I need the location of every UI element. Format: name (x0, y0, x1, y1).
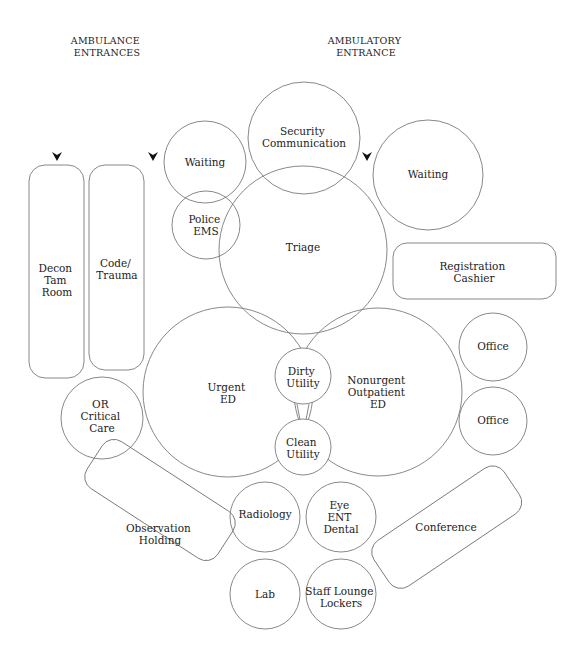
svg-text:OR Critical Care: OR Critical Care (81, 398, 124, 434)
room-conference[interactable]: Conference (366, 460, 527, 593)
svg-text:Security Communication: Security Communication (262, 125, 346, 149)
room-dirty-utility[interactable]: Dirty Utility (275, 348, 331, 404)
room-staff-lounge-lockers[interactable]: Staff Lounge Lockers (305, 559, 377, 629)
svg-text:Dirty Utility: Dirty Utility (286, 365, 319, 389)
svg-text:Police EMS: Police EMS (188, 213, 223, 237)
ambulatory-entrance-header: AMBULATORY ENTRANCE (327, 35, 405, 58)
svg-text:Urgent ED: Urgent ED (207, 381, 248, 405)
svg-text:Staff Lounge Lockers: Staff Lounge Lockers (305, 585, 377, 609)
svg-text:Observation Holding: Observation Holding (126, 522, 194, 546)
svg-text:Waiting: Waiting (408, 168, 449, 180)
svg-text:Radiology: Radiology (238, 508, 291, 520)
room-registration-cashier[interactable]: Registration Cashier (393, 243, 556, 299)
svg-text:Office: Office (477, 340, 509, 352)
svg-text:Registration Cashier: Registration Cashier (439, 260, 508, 284)
room-observation-holding[interactable]: Observation Holding (79, 434, 240, 566)
svg-text:Nonurgent Outpatient: Nonurgent Outpatient ED (347, 374, 408, 410)
svg-text:Clean Utility: Clean Utility (286, 436, 320, 460)
room-decon-tam-room[interactable]: Decon Decon Tam Room (29, 165, 84, 378)
room-radiology[interactable]: Radiology (230, 482, 300, 552)
utility-connector (297, 404, 309, 420)
svg-text:Waiting: Waiting (185, 156, 226, 168)
room-security-communication[interactable]: Security Communication (248, 82, 360, 194)
room-police-ems[interactable]: Police EMS (172, 191, 240, 259)
room-office-2[interactable]: Office (459, 387, 527, 455)
svg-text:Decon Tam Room: Decon Tam Room (39, 262, 76, 298)
svg-text:Lab: Lab (255, 588, 275, 600)
svg-text:Code/ Trauma: Code/ Trauma (96, 257, 137, 281)
room-waiting-right[interactable]: Waiting (373, 120, 483, 230)
arrowhead-down-icon (362, 152, 372, 161)
room-code-trauma[interactable]: Code/ Trauma (89, 165, 144, 370)
ambulance-entrances-header: AMBULANCE ENTRANCES (70, 35, 143, 58)
room-eye-ent-dental[interactable]: Eye ENT Dental (306, 482, 376, 552)
arrowhead-down-icon (52, 152, 62, 161)
room-office-1[interactable]: Office (459, 313, 527, 381)
svg-text:Conference: Conference (415, 521, 476, 533)
svg-text:Office: Office (477, 414, 509, 426)
arrowhead-down-icon (148, 152, 158, 161)
room-lab[interactable]: Lab (230, 559, 300, 629)
svg-text:Eye ENT Dental: Eye ENT Dental (323, 499, 359, 535)
ed-bubble-diagram: AMBULANCE ENTRANCES AMBULATORY ENTRANCE … (0, 0, 585, 662)
room-clean-utility[interactable]: Clean Utility (275, 419, 331, 475)
svg-text:Triage: Triage (286, 241, 321, 253)
